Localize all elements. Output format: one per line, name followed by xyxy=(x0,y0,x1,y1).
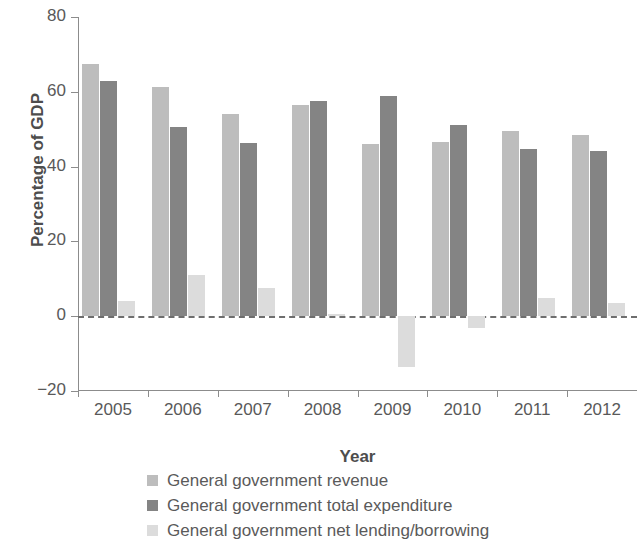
bar xyxy=(450,125,467,316)
legend-item-label: General government revenue xyxy=(167,471,388,491)
bar xyxy=(100,81,117,317)
x-axis-tick-label: 2008 xyxy=(288,400,358,420)
x-axis-tick xyxy=(567,390,568,397)
bar xyxy=(82,64,99,316)
bar xyxy=(362,144,379,316)
y-axis-tick-label: 40 xyxy=(20,156,66,176)
x-axis-tick xyxy=(78,390,79,397)
bar xyxy=(398,316,415,366)
x-axis-tick xyxy=(288,390,289,397)
legend-item: General government net lending/borrowing xyxy=(147,518,637,543)
bar xyxy=(502,131,519,316)
legend-item-label: General government total expenditure xyxy=(167,496,452,516)
y-axis-tick-label: −20 xyxy=(20,380,66,400)
bar xyxy=(188,275,205,316)
plot-area: 806040200−20 200520062007200820092010201… xyxy=(78,17,637,391)
bar xyxy=(432,142,449,316)
bar xyxy=(222,114,239,316)
legend-swatch-icon xyxy=(147,525,158,536)
bar xyxy=(118,301,135,316)
y-axis-tick: −20 xyxy=(71,391,78,392)
legend-swatch-icon xyxy=(147,500,158,511)
x-axis-tick-label: 2005 xyxy=(78,400,148,420)
x-axis-tick xyxy=(148,390,149,397)
x-axis-tick-label: 2009 xyxy=(358,400,428,420)
x-axis-tick xyxy=(358,390,359,397)
bar xyxy=(258,288,275,316)
y-axis-tick: 0 xyxy=(71,316,78,317)
legend-item: General government revenue xyxy=(147,468,637,493)
bar xyxy=(380,96,397,317)
bar xyxy=(310,101,327,316)
y-axis-tick-label: 20 xyxy=(20,230,66,250)
y-axis-tick: 20 xyxy=(71,241,78,242)
bar xyxy=(292,105,309,316)
bar xyxy=(590,151,607,317)
y-axis-tick-label: 0 xyxy=(20,305,66,325)
zero-reference-line xyxy=(78,316,637,318)
bar-chart: Percentage of GDP 806040200−20 200520062… xyxy=(0,0,637,544)
legend-swatch-icon xyxy=(147,475,158,486)
x-axis-tick xyxy=(497,390,498,397)
bar xyxy=(170,127,187,316)
bar xyxy=(572,135,589,316)
bar xyxy=(468,316,485,328)
x-axis-tick-label: 2010 xyxy=(427,400,497,420)
bar xyxy=(152,87,169,316)
x-axis-tick-label: 2012 xyxy=(567,400,637,420)
bar xyxy=(240,143,257,316)
chart-legend: General government revenueGeneral govern… xyxy=(147,468,637,543)
y-axis-tick-label: 60 xyxy=(20,81,66,101)
bar xyxy=(328,314,345,316)
y-axis-line xyxy=(78,17,79,391)
x-axis-tick xyxy=(218,390,219,397)
legend-item-label: General government net lending/borrowing xyxy=(167,521,489,541)
x-axis-title: Year xyxy=(78,447,637,467)
bar xyxy=(520,149,537,316)
legend-item: General government total expenditure xyxy=(147,493,637,518)
x-axis-tick xyxy=(427,390,428,397)
y-axis-tick: 40 xyxy=(71,167,78,168)
x-axis-tick-label: 2007 xyxy=(218,400,288,420)
y-axis-tick-label: 80 xyxy=(20,6,66,26)
bar xyxy=(608,303,625,316)
x-axis-tick-label: 2006 xyxy=(148,400,218,420)
y-axis-tick: 80 xyxy=(71,17,78,18)
bar xyxy=(538,298,555,317)
y-axis-tick: 60 xyxy=(71,92,78,93)
x-axis-tick-label: 2011 xyxy=(497,400,567,420)
